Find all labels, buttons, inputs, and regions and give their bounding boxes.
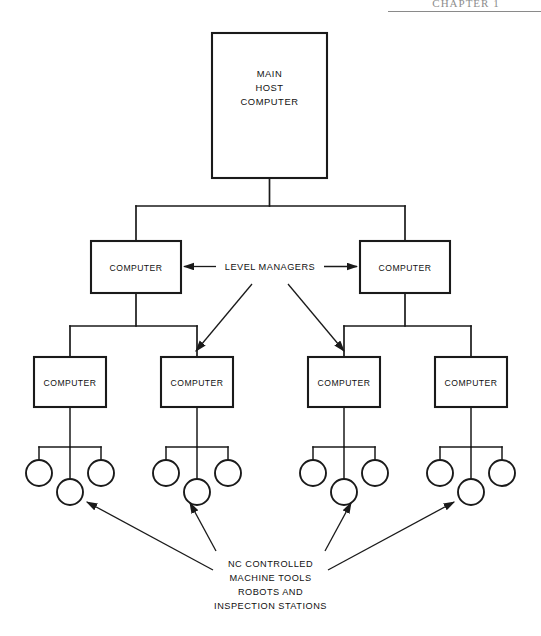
level3-computer-1-label: COMPUTER: [44, 378, 97, 388]
level2-computer-right[interactable]: COMPUTER: [360, 241, 450, 293]
leaf-node-station[interactable]: [427, 460, 453, 486]
level3-computer-1[interactable]: COMPUTER: [34, 357, 106, 407]
leaf-caption-annotation: NC CONTROLLED MACHINE TOOLS ROBOTS AND I…: [87, 502, 454, 611]
leaf-node-station[interactable]: [184, 479, 210, 505]
leaf-caption-line1: NC CONTROLLED: [228, 559, 313, 569]
diagram-page: CHAPTER 1 MAIN HOST COMPUTER COMPUTER CO…: [0, 0, 541, 636]
main-host-computer-label-line3: COMPUTER: [240, 96, 298, 107]
hierarchical-control-diagram: CHAPTER 1 MAIN HOST COMPUTER COMPUTER CO…: [0, 0, 541, 636]
leaf-node-station[interactable]: [153, 460, 179, 486]
leaf-node-station[interactable]: [26, 460, 52, 486]
main-host-computer-node[interactable]: MAIN HOST COMPUTER: [212, 33, 327, 178]
caption-arrow-to-group-2: [190, 503, 216, 551]
caption-arrow-to-group-1: [87, 502, 213, 570]
leaf-node-station[interactable]: [362, 460, 388, 486]
level2-computer-right-label: COMPUTER: [379, 263, 432, 273]
leaf-group-3: [300, 407, 388, 505]
leaf-group-2: [153, 407, 241, 505]
level3-computer-3[interactable]: COMPUTER: [308, 357, 380, 407]
main-host-computer-label-line1: MAIN: [257, 68, 283, 79]
connector-level2-to-level3: [70, 293, 471, 357]
level3-computer-4-label: COMPUTER: [445, 378, 498, 388]
leaf-node-station[interactable]: [88, 460, 114, 486]
connector-level1-to-level2: [136, 178, 405, 241]
leaf-caption-line4: INSPECTION STATIONS: [214, 601, 327, 611]
leaf-node-station[interactable]: [300, 460, 326, 486]
main-host-computer-label-line2: HOST: [255, 82, 283, 93]
level3-computer-3-label: COMPUTER: [318, 378, 371, 388]
leaf-node-station[interactable]: [215, 460, 241, 486]
level2-computer-left[interactable]: COMPUTER: [91, 241, 181, 293]
leaf-node-station[interactable]: [57, 479, 83, 505]
level-managers-annotation: LEVEL MANAGERS: [184, 262, 357, 351]
level3-computer-4[interactable]: COMPUTER: [435, 357, 507, 407]
level-managers-label: LEVEL MANAGERS: [225, 262, 315, 272]
caption-arrow-to-group-4: [328, 502, 454, 570]
leaf-node-station[interactable]: [489, 460, 515, 486]
caption-arrow-to-group-3: [325, 503, 351, 551]
level2-computer-left-label: COMPUTER: [110, 263, 163, 273]
level3-computer-2-label: COMPUTER: [171, 378, 224, 388]
page-header: CHAPTER 1: [388, 0, 541, 12]
leaf-group-1: [26, 407, 114, 505]
leaf-caption-line2: MACHINE TOOLS: [229, 573, 311, 583]
level-managers-arrow-diagonal-right: [288, 284, 344, 351]
leaf-group-4: [427, 407, 515, 505]
page-header-label: CHAPTER 1: [432, 0, 499, 9]
leaf-node-station[interactable]: [331, 479, 357, 505]
level-managers-arrow-diagonal-left: [196, 284, 252, 351]
level3-computer-2[interactable]: COMPUTER: [161, 357, 233, 407]
leaf-node-station[interactable]: [458, 479, 484, 505]
leaf-caption-line3: ROBOTS AND: [238, 587, 303, 597]
